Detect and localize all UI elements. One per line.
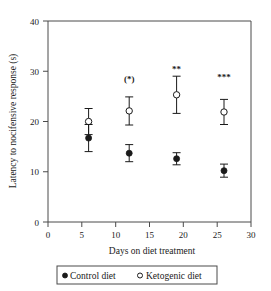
significance-marker-day19: ** <box>172 64 182 74</box>
y-tick-label-0: 0 <box>35 218 40 228</box>
significance-marker-day12: (*) <box>124 74 135 84</box>
legend-label-ketogenic-diet: Ketogenic diet <box>146 271 202 281</box>
data-point-control-day12 <box>125 145 133 162</box>
legend-label-control-diet: Control diet <box>70 271 116 281</box>
x-tick-label-15: 15 <box>145 230 155 240</box>
y-tick-label-20: 20 <box>30 117 40 127</box>
series-ketogenic-diet <box>85 76 228 134</box>
x-tick-label-0: 0 <box>46 230 51 240</box>
scatter-plot-svg: 40 30 20 10 0 0 5 10 15 20 25 30 Days on… <box>0 0 271 291</box>
y-tick-label-30: 30 <box>30 67 40 77</box>
legend-marker-ketogenic-diet <box>138 273 143 278</box>
data-point-ketogenic-day12 <box>125 97 133 125</box>
data-point-control-day26 <box>220 164 228 177</box>
significance-marker-day26: *** <box>217 72 231 82</box>
y-tick-label-10: 10 <box>30 167 40 177</box>
x-tick-label-10: 10 <box>111 230 121 240</box>
data-point-control-day19 <box>173 153 181 165</box>
axes-frame <box>48 21 251 222</box>
chart-figure: 40 30 20 10 0 0 5 10 15 20 25 30 Days on… <box>0 0 271 291</box>
y-axis-title: Latency to nocifensive response (s) <box>8 54 19 189</box>
x-axis-ticks: 0 5 10 15 20 25 30 <box>46 222 256 240</box>
y-axis-ticks: 40 30 20 10 0 <box>30 17 48 228</box>
x-tick-label-25: 25 <box>213 230 223 240</box>
data-point-ketogenic-day19 <box>173 76 181 113</box>
series-control-diet <box>85 125 228 178</box>
data-point-ketogenic-day26 <box>220 99 228 124</box>
data-point-control-day6 <box>85 125 93 152</box>
y-tick-label-40: 40 <box>30 17 40 27</box>
x-tick-label-20: 20 <box>179 230 189 240</box>
x-tick-label-30: 30 <box>247 230 257 240</box>
x-axis-title: Days on diet treatment <box>109 246 196 256</box>
chart-legend: Control diet Ketogenic diet <box>57 266 217 284</box>
legend-marker-control-diet <box>63 273 68 278</box>
x-tick-label-5: 5 <box>80 230 85 240</box>
significance-annotations: (*) ** *** <box>124 64 231 84</box>
